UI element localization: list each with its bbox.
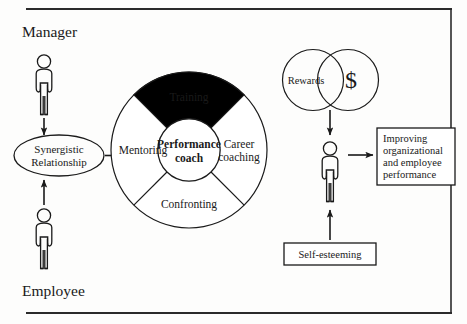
improving-line2: organizational: [383, 145, 443, 156]
venn-label-money: $: [345, 67, 357, 93]
employee-figure-icon: [36, 209, 52, 269]
manager-figure-icon: [36, 55, 52, 115]
performance-coach-diagram: Manager Synergistic Relationship: [0, 0, 467, 324]
improving-line1: Improving: [383, 133, 428, 144]
coached-person-figure-icon: [322, 142, 338, 202]
wheel-hub-label-line2: coach: [175, 152, 204, 164]
performance-coach-wheel: Training Mentoring Career coaching Confr…: [111, 72, 267, 228]
improving-line3: and employee: [383, 157, 442, 168]
synergistic-relationship-node: Synergistic Relationship: [14, 135, 104, 176]
wheel-label-career-coaching-line1: Career: [224, 138, 255, 150]
improving-performance-box: Improving organizational and employee pe…: [377, 128, 455, 185]
synergistic-line2: Relationship: [31, 156, 87, 168]
wheel-label-training: Training: [169, 91, 208, 104]
venn-label-rewards: Rewards: [288, 75, 325, 86]
wheel-label-career-coaching-line2: coaching: [218, 151, 260, 164]
wheel-label-confronting: Confronting: [161, 198, 217, 211]
wheel-hub-label-line1: Performance: [157, 138, 221, 150]
synergistic-line1: Synergistic: [34, 143, 83, 155]
self-esteeming-label: Self-esteeming: [299, 249, 363, 260]
diagram-canvas: Manager Synergistic Relationship: [0, 0, 467, 324]
self-esteeming-box: Self-esteeming: [284, 243, 376, 265]
manager-label: Manager: [22, 23, 78, 40]
improving-line4: performance: [383, 169, 436, 180]
rewards-venn: Rewards $: [283, 50, 379, 111]
employee-label: Employee: [22, 282, 85, 299]
